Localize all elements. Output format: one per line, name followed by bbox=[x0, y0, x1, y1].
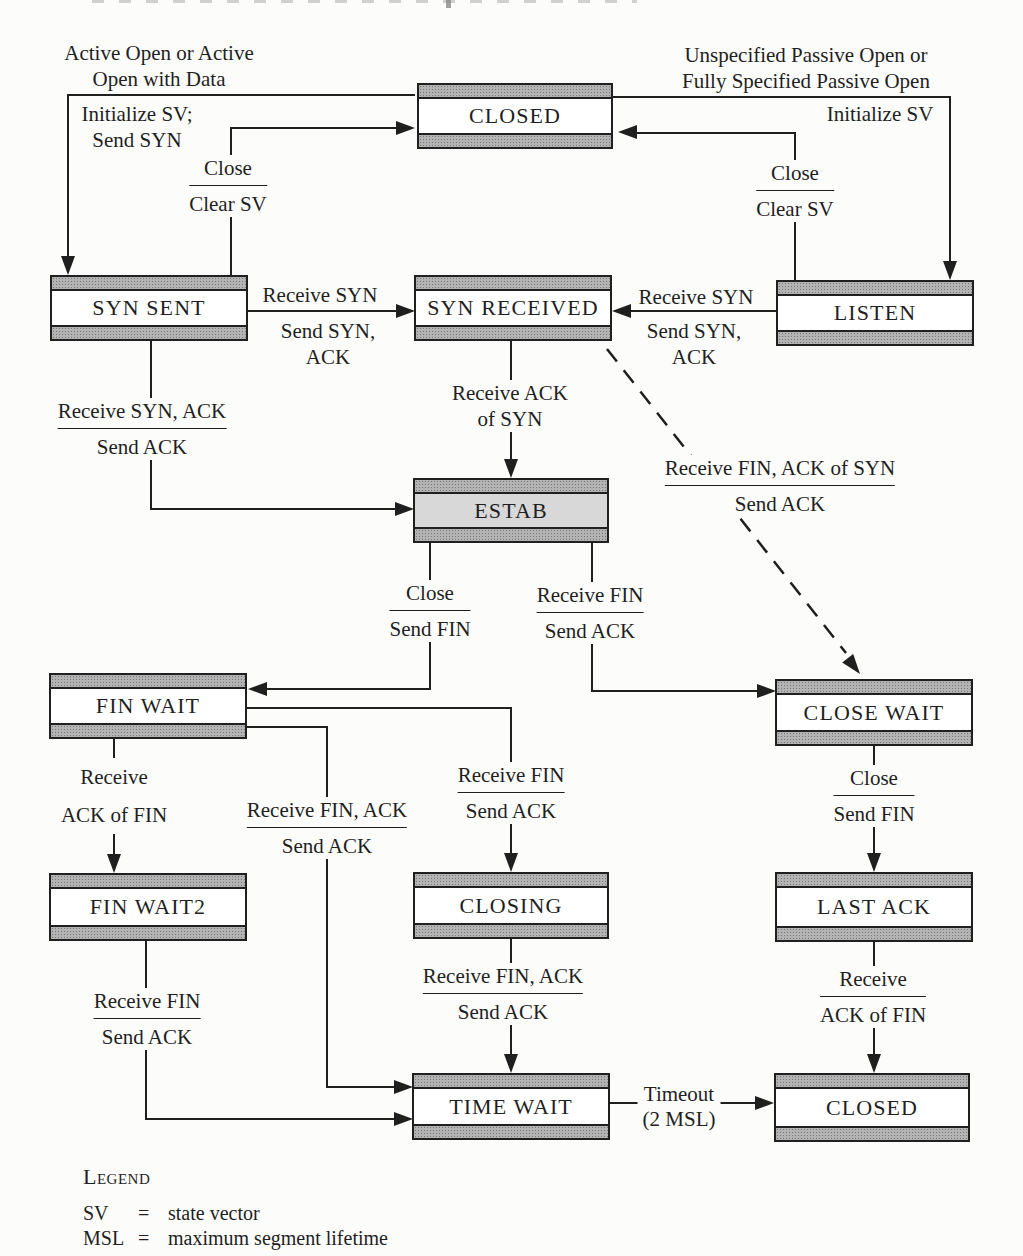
state-label: TIME WAIT bbox=[414, 1089, 608, 1124]
arrowhead-into-timewait-left-upper bbox=[394, 1080, 413, 1094]
state-band bbox=[419, 133, 611, 147]
state-syn-received: SYN RECEIVED bbox=[414, 275, 612, 341]
state-label: CLOSED bbox=[419, 99, 611, 133]
legend-title: Legend bbox=[83, 1164, 388, 1190]
state-label: CLOSE WAIT bbox=[777, 695, 971, 730]
state-band bbox=[777, 874, 971, 888]
state-last-ack: LAST ACK bbox=[775, 872, 973, 942]
fraction-rule bbox=[665, 485, 895, 486]
fraction-rule bbox=[389, 610, 470, 611]
label-receive-fin-finwait2: Receive FIN Send ACK bbox=[89, 988, 206, 1050]
fraction-rule bbox=[423, 993, 583, 994]
state-label: ESTAB bbox=[415, 494, 607, 527]
legend-term: MSL bbox=[83, 1226, 138, 1251]
state-label: FIN WAIT bbox=[51, 689, 245, 723]
arrowhead-into-timewait-left-lower bbox=[394, 1112, 413, 1126]
fraction-rule bbox=[247, 827, 407, 828]
arrowhead-into-timewait-top bbox=[504, 1054, 518, 1073]
label-close-send-fin-right: Close Send FIN bbox=[828, 765, 919, 827]
fraction-rule bbox=[756, 190, 834, 191]
label-timeout-2msl: Timeout (2 MSL) bbox=[638, 1082, 721, 1132]
legend-equals: = bbox=[138, 1201, 168, 1226]
arrowhead-into-estab-top bbox=[504, 459, 518, 478]
state-band bbox=[416, 325, 610, 339]
legend-row-msl: MSL = maximum segment lifetime bbox=[83, 1226, 388, 1251]
label-receive-syn-left-above: Receive SYN bbox=[258, 282, 383, 308]
arrowhead-into-synreceived-left bbox=[396, 304, 415, 318]
arrowhead-into-closed-right bbox=[618, 125, 637, 139]
state-band bbox=[776, 1126, 968, 1140]
label-initialize-sv-send-syn: Initialize SV; Send SYN bbox=[77, 101, 198, 153]
label-close-send-fin-left: Close Send FIN bbox=[384, 580, 475, 642]
fraction-rule bbox=[537, 612, 644, 613]
label-receive-fin-to-closing: Receive FIN Send ACK bbox=[453, 762, 570, 824]
arrowhead-into-synreceived-right bbox=[612, 304, 631, 318]
fraction-rule bbox=[458, 792, 565, 793]
state-label: LISTEN bbox=[778, 296, 972, 330]
legend-definition: maximum segment lifetime bbox=[168, 1226, 388, 1251]
state-band bbox=[52, 277, 246, 291]
state-syn-sent: SYN SENT bbox=[50, 275, 248, 341]
state-band bbox=[51, 925, 245, 939]
state-band bbox=[778, 282, 972, 296]
arrowhead-into-lastack-top bbox=[867, 853, 881, 872]
state-band bbox=[416, 277, 610, 291]
state-band bbox=[51, 675, 245, 689]
state-band bbox=[776, 1075, 968, 1089]
fraction-rule bbox=[820, 996, 926, 997]
label-receive-fin-ack-closing: Receive FIN, ACK Send ACK bbox=[418, 963, 588, 1025]
state-band bbox=[415, 874, 607, 888]
fraction-rule bbox=[94, 1018, 201, 1019]
state-band bbox=[777, 730, 971, 744]
label-receive-fin-ack-finwait: Receive FIN, ACK Send ACK bbox=[242, 797, 412, 859]
label-receive-fin-ack-of-syn: Receive FIN, ACK of SYN Send ACK bbox=[660, 455, 900, 517]
state-band bbox=[51, 723, 245, 737]
arrowhead-into-finwait-right bbox=[248, 682, 267, 696]
state-band bbox=[414, 1124, 608, 1138]
state-listen: LISTEN bbox=[776, 280, 974, 346]
state-band bbox=[52, 325, 246, 339]
state-band bbox=[778, 330, 972, 344]
state-band bbox=[51, 875, 245, 889]
label-close-clear-sv-left: Close Clear SV bbox=[184, 155, 272, 217]
arrowhead-into-estab-left bbox=[395, 502, 414, 516]
label-receive-fin-estab: Receive FIN Send ACK bbox=[532, 582, 649, 644]
label-receive-ack-of-syn: Receive ACK of SYN bbox=[447, 380, 573, 432]
state-band bbox=[415, 923, 607, 937]
label-receive-syn-left-below: Send SYN, ACK bbox=[276, 318, 381, 370]
state-label: LAST ACK bbox=[777, 888, 971, 926]
tcp-state-diagram: CLOSED SYN SENT SYN RECEIVED LISTEN ESTA… bbox=[0, 0, 1023, 1256]
state-label: CLOSING bbox=[415, 888, 607, 923]
label-receive-syn-right-above: Receive SYN bbox=[634, 284, 759, 310]
state-label: SYN RECEIVED bbox=[416, 291, 610, 325]
state-band bbox=[414, 1075, 608, 1089]
label-receive-syn-ack-send-ack: Receive SYN, ACK Send ACK bbox=[53, 398, 232, 460]
arrowhead-into-closed-left bbox=[396, 121, 415, 135]
arrowhead-into-finwait2-top bbox=[107, 854, 121, 873]
legend-equals: = bbox=[138, 1226, 168, 1251]
label-close-clear-sv-right: Close Clear SV bbox=[751, 160, 839, 222]
label-active-open: Active Open or Active Open with Data bbox=[59, 40, 259, 92]
label-receive-ack-of-fin-finwait: Receive ACK of FIN bbox=[56, 758, 172, 834]
legend: Legend SV = state vector MSL = maximum s… bbox=[83, 1164, 388, 1251]
state-label: CLOSED bbox=[776, 1089, 968, 1126]
legend-term: SV bbox=[83, 1201, 138, 1226]
state-label: FIN WAIT2 bbox=[51, 889, 245, 925]
state-closed-bottom: CLOSED bbox=[774, 1073, 970, 1142]
arrowhead-into-listen bbox=[943, 261, 957, 280]
label-receive-ack-of-fin-lastack: Receive ACK of FIN bbox=[815, 966, 931, 1028]
fraction-rule bbox=[833, 795, 914, 796]
label-passive-open: Unspecified Passive Open or Fully Specif… bbox=[677, 42, 935, 94]
legend-definition: state vector bbox=[168, 1201, 260, 1226]
fraction-rule bbox=[58, 428, 227, 429]
state-band bbox=[415, 527, 607, 541]
state-band bbox=[419, 85, 611, 99]
state-label: SYN SENT bbox=[52, 291, 246, 325]
state-band bbox=[777, 681, 971, 695]
state-fin-wait2: FIN WAIT2 bbox=[49, 873, 247, 941]
arrowhead-into-closed-bottom-top bbox=[867, 1054, 881, 1073]
arrowhead-into-syn-sent bbox=[61, 256, 75, 275]
state-band bbox=[777, 926, 971, 940]
state-time-wait: TIME WAIT bbox=[412, 1073, 610, 1140]
fraction-rule bbox=[189, 185, 267, 186]
